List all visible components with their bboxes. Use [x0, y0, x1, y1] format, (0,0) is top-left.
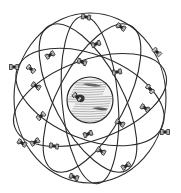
satellite-icon [81, 14, 91, 20]
satellite-icon [10, 65, 19, 70]
satellite-icon [26, 64, 36, 73]
satellite-icon [112, 69, 122, 75]
satellite-icon [45, 51, 55, 60]
constellation-canvas [0, 0, 181, 193]
satellite-icon [121, 162, 131, 171]
satellite-icon [83, 130, 93, 138]
satellite-icon [145, 84, 154, 94]
satellite-icon [91, 40, 101, 48]
earth-globe [67, 77, 113, 123]
satellite-icon [31, 82, 41, 91]
satellite-icon [161, 130, 170, 135]
gps-constellation-diagram [0, 0, 181, 193]
satellite-icon [49, 143, 59, 149]
satellite-icon [96, 147, 106, 156]
satellite-icon [152, 47, 162, 57]
satellite-icon [115, 119, 125, 128]
satellite-icon [140, 104, 150, 113]
